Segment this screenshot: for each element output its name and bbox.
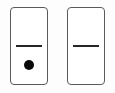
domino-half-bottom [11,46,47,84]
domino-tile-blank-one[interactable] [10,7,48,85]
domino-half-top [68,8,104,46]
pip-field-bottom [11,46,47,84]
domino-half-bottom [68,46,104,84]
pip-field-top [11,8,47,46]
domino-tile-double-blank[interactable] [67,7,105,85]
domino-board [0,0,115,93]
domino-half-top [11,8,47,46]
pip-field-top [68,8,104,46]
pip-field-bottom [68,46,104,84]
pip-center [24,60,34,70]
